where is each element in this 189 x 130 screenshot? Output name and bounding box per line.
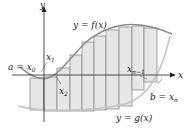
f-curve-label: y = f(x)	[72, 20, 107, 30]
x-axis-arrow-icon	[170, 73, 176, 78]
leader-b	[158, 78, 162, 84]
b-label: b = xn	[150, 92, 178, 103]
diagram-canvas: y x y = f(x) y = g(x) a = x0 x1 x2 xn−1 …	[0, 0, 189, 130]
rectangle	[30, 78, 44, 110]
x1-label: x1	[46, 52, 55, 63]
a-label: a = x0	[8, 62, 36, 73]
rectangle	[44, 77, 57, 111]
x-axis-label: x	[178, 70, 183, 80]
rectangle	[94, 36, 106, 110]
y-axis-label: y	[39, 0, 46, 10]
riemann-area-between-curves-diagram: y x y = f(x) y = g(x) a = x0 x1 x2 xn−1 …	[0, 0, 189, 130]
g-curve-label: y = g(x)	[115, 113, 153, 123]
rectangle	[106, 30, 119, 109]
rectangle	[144, 28, 157, 82]
rectangle	[132, 26, 144, 90]
rectangle	[70, 55, 82, 111]
rectangle	[82, 42, 94, 111]
